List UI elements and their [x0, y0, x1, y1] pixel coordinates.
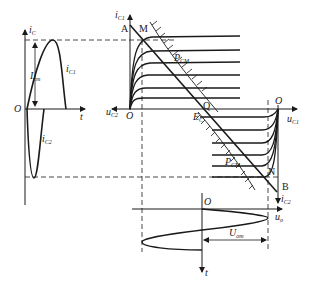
lower-output-characteristics: O uC1 EC PCM N B iC2 [192, 95, 299, 205]
left-current-waveform: iC O t Icm iC1 iC2 [14, 24, 85, 205]
uc2-axis-label: uC2 [106, 106, 118, 118]
origin-label-output: O [204, 196, 211, 207]
t-axis-label: t [80, 111, 83, 122]
point-n-label: N [268, 166, 275, 177]
point-b-label: B [282, 181, 289, 192]
ic1-label: iC1 [66, 63, 76, 75]
origin-label-upper: O [126, 110, 133, 121]
t-axis-output-label: t [205, 267, 208, 278]
point-a-label: A [121, 23, 129, 34]
ic1-axis-label: iC1 [115, 9, 125, 21]
uc1-axis-label: uC1 [287, 113, 299, 125]
output-voltage-waveform: O uo Uom t [132, 193, 283, 278]
pcm-label-lower: PCM [224, 156, 241, 168]
ic-axis-label: iC [29, 24, 37, 36]
push-pull-load-line-diagram: iC O t Icm iC1 iC2 [0, 0, 311, 281]
origin-label-left: O [14, 103, 21, 114]
pcm-label-upper: PCM [173, 52, 190, 64]
upper-output-characteristics: iC1 A M Q uC2 O PCM [106, 9, 240, 121]
uo-axis-label: uo [275, 211, 283, 223]
ec-label: EC [192, 111, 204, 123]
ic2-axis-label: iC2 [281, 193, 291, 205]
uo-sine-curve [142, 209, 268, 250]
pcm-hyperbola-lower [198, 112, 255, 190]
point-m-label: M [139, 23, 148, 34]
ic2-label: iC2 [42, 133, 52, 145]
origin-label-lower: O [275, 95, 282, 106]
uom-label: Uom [229, 227, 244, 239]
